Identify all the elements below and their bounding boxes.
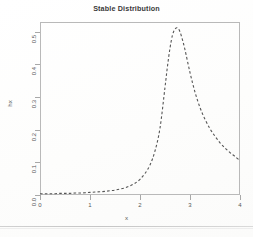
x-tick-label: 4 [233,202,247,208]
y-axis-title: hx [6,100,13,107]
chart-title: Stable Distribution [0,4,253,13]
x-tick-mark [140,195,141,200]
x-tick-label: 2 [133,202,147,208]
plot-area [40,22,240,195]
density-curve [40,28,240,194]
scan-edge-line-secondary [0,228,253,229]
x-tick-mark [190,195,191,200]
y-tick-label: 0.3 [31,96,37,112]
x-tick-mark [40,195,41,200]
y-tick-label: 0.4 [31,63,37,79]
x-axis-title: x [0,214,253,221]
density-curve-svg [40,22,240,195]
x-tick-label: 1 [83,202,97,208]
y-tick-label: 0.1 [31,161,37,177]
x-tick-mark [240,195,241,200]
scan-edge-line [0,226,253,227]
y-tick-label: 0.2 [31,129,37,145]
x-tick-mark [90,195,91,200]
x-tick-label: 0 [33,202,47,208]
stable-distribution-figure: Stable Distribution hx 0.00.10.20.30.40.… [0,0,253,237]
y-tick-label: 0.5 [31,31,37,47]
x-tick-label: 3 [183,202,197,208]
